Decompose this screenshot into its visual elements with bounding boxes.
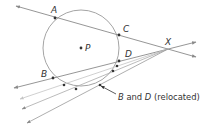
label-p: P (85, 43, 91, 53)
relocated-point (112, 70, 115, 73)
annotation-relocated: B and D (relocated) (118, 92, 200, 102)
label-b: B (41, 69, 47, 79)
secant-line-bdx (14, 42, 196, 88)
label-x: X (164, 37, 172, 47)
relocated-point (99, 84, 102, 87)
relocated-point (63, 84, 66, 87)
point-d (118, 60, 121, 63)
label-d: D (125, 49, 132, 59)
point-a (54, 17, 57, 20)
ray-relocated-3 (27, 49, 168, 123)
label-c: C (123, 24, 130, 34)
relocated-point (75, 88, 78, 91)
point-b (52, 77, 55, 80)
annotation-rest: (relocated) (151, 92, 200, 102)
point-c (118, 34, 121, 37)
secant-diagram: A C X P D B B and D (relocated) (0, 0, 212, 131)
annotation-and: and (124, 92, 145, 102)
annotation-pointer (101, 86, 116, 94)
label-a: A (50, 5, 57, 15)
relocated-point (116, 65, 119, 68)
center-point-p (80, 47, 83, 50)
